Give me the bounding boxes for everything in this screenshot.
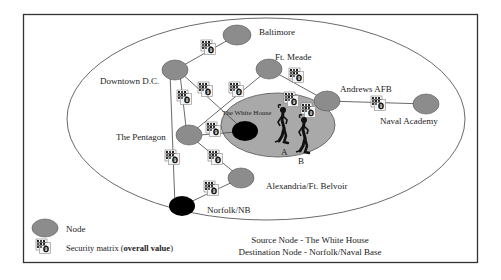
label-baltimore: Baltimore — [259, 27, 295, 37]
label-person-b: B — [298, 156, 304, 166]
legend-security-matrix-label: Security matrix (overall value) — [66, 243, 173, 253]
node-the-pentagon[interactable] — [176, 125, 202, 145]
network-diagram: 9 — [0, 0, 501, 280]
label-the-white-house: The White House — [222, 109, 271, 117]
label-alexandria-ft-belvoir: Alexandria/Ft. Belvoir — [266, 181, 347, 191]
legend-matrix-suffix: ) — [170, 243, 173, 253]
footer-destination: Destination Node - Norfolk/Naval Base — [195, 247, 425, 257]
node-alexandria-ft-belvoir[interactable] — [228, 168, 254, 188]
label-person-a: A — [281, 147, 288, 157]
legend-node-icon — [32, 219, 58, 237]
legend-matrix-bold: overall value — [124, 243, 171, 253]
label-the-pentagon: The Pentagon — [116, 132, 166, 142]
node-baltimore[interactable] — [223, 25, 251, 45]
node-ft-meade[interactable] — [256, 59, 282, 79]
footer-source: Source Node - The White House — [195, 235, 425, 245]
node-the-white-house[interactable] — [232, 121, 258, 141]
label-downtown-dc: Downtown D.C. — [100, 76, 159, 86]
node-naval-academy[interactable] — [413, 94, 439, 114]
label-andrews-afb: Andrews AFB — [340, 84, 392, 94]
label-ft-meade: Ft. Meade — [275, 52, 312, 62]
legend-node-label: Node — [66, 224, 86, 234]
node-norfolk-nb[interactable] — [169, 196, 195, 216]
legend-matrix-prefix: Security matrix ( — [66, 243, 124, 253]
label-naval-academy: Naval Academy — [380, 116, 438, 126]
node-downtown-dc[interactable] — [162, 60, 188, 80]
node-andrews-afb[interactable] — [314, 91, 340, 111]
label-norfolk-nb: Norfolk/NB — [207, 205, 251, 215]
